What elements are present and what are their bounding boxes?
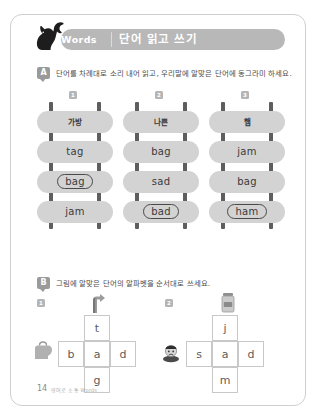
- ladder-2-option-2[interactable]: sad: [123, 171, 199, 193]
- ladder-3-word-3: ham: [227, 204, 266, 219]
- sad-face-icon: [159, 339, 185, 363]
- ladder-2-word-2: sad: [152, 176, 171, 187]
- ladder-1-number: 1: [69, 91, 77, 99]
- puzzle-2-cell-left[interactable]: s: [186, 341, 212, 367]
- instruction-a-badge: A: [37, 67, 50, 79]
- page-header: Words 단어 읽고 쓰기: [33, 29, 285, 51]
- puzzle-2-cell-bottom[interactable]: m: [212, 367, 238, 393]
- ladder-3-number: 3: [241, 91, 249, 99]
- words-tag-label: Words: [51, 33, 107, 46]
- instruction-b-text: 그림에 알맞은 단어의 알파벳을 순서대로 쓰세요.: [56, 278, 210, 289]
- ladder-2-korean-rung: 나쁜: [123, 111, 199, 133]
- ladder-column-1: 1 가방 tag bag jam: [37, 91, 113, 229]
- workbook-page: Words 단어 읽고 쓰기 A 단어를 차례대로 소리 내어 읽고, 우리말에…: [10, 14, 306, 406]
- ladder-2-number: 2: [155, 91, 163, 99]
- ladder-1-korean-rung: 가방: [37, 111, 113, 133]
- ladder-exercise-group: 1 가방 tag bag jam 2 나쁜 bag: [33, 91, 287, 229]
- ladder-1-word-2: bag: [57, 174, 93, 189]
- ladder-1-korean-word: 가방: [68, 118, 82, 127]
- jam-jar-icon: [215, 291, 241, 315]
- ladder-3-word-1: jam: [237, 146, 257, 157]
- page-number: 14: [37, 384, 47, 394]
- ladder-1-option-2[interactable]: bag: [37, 171, 113, 193]
- ladder-2-option-1[interactable]: bag: [123, 141, 199, 163]
- puzzle-1-cell-right[interactable]: d: [110, 341, 136, 367]
- hand-pointing-icon: [87, 291, 113, 315]
- ladder-3-option-3[interactable]: ham: [209, 201, 285, 223]
- puzzle-1-cell-center[interactable]: a: [84, 341, 110, 367]
- puzzle-2-cell-top[interactable]: j: [212, 315, 238, 341]
- puzzle-1-number: 1: [37, 299, 45, 307]
- ladder-3-korean-word: 햄: [244, 118, 251, 127]
- ladder-1-option-1[interactable]: tag: [37, 141, 113, 163]
- puzzle-2-number: 2: [165, 299, 173, 307]
- ladder-1-option-3[interactable]: jam: [37, 201, 113, 223]
- instruction-a-text: 단어를 차례대로 소리 내어 읽고, 우리말에 알맞은 단어에 동그라미 하세요…: [56, 68, 292, 79]
- ladder-1-word-1: tag: [66, 146, 83, 157]
- puzzle-1-cell-left[interactable]: b: [58, 341, 84, 367]
- ladder-2-option-3[interactable]: bad: [123, 201, 199, 223]
- ladder-3-option-2[interactable]: bag: [209, 171, 285, 193]
- footer-label: 영어로 소통 Words: [51, 386, 97, 395]
- instruction-b-badge: B: [37, 277, 50, 289]
- puzzle-2-cell-right[interactable]: d: [238, 341, 264, 367]
- ladder-1-word-3: jam: [65, 206, 85, 217]
- bag-icon: [31, 339, 57, 363]
- ladder-2-word-1: bag: [151, 146, 171, 157]
- puzzle-1-cell-top[interactable]: t: [84, 315, 110, 341]
- header-korean-title: 단어 읽고 쓰기: [119, 31, 249, 48]
- puzzle-2-cell-center[interactable]: a: [212, 341, 238, 367]
- ladder-2-korean-word: 나쁜: [154, 118, 168, 127]
- header-divider: [111, 32, 112, 47]
- crossword-puzzle-2: 2 j s a d m: [163, 299, 287, 403]
- ladder-3-option-1[interactable]: jam: [209, 141, 285, 163]
- ladder-column-2: 2 나쁜 bag sad bad: [123, 91, 199, 229]
- ladder-3-korean-rung: 햄: [209, 111, 285, 133]
- ladder-3-word-2: bag: [237, 176, 257, 187]
- ladder-column-3: 3 햄 jam bag ham: [209, 91, 285, 229]
- ladder-2-word-3: bad: [143, 204, 179, 219]
